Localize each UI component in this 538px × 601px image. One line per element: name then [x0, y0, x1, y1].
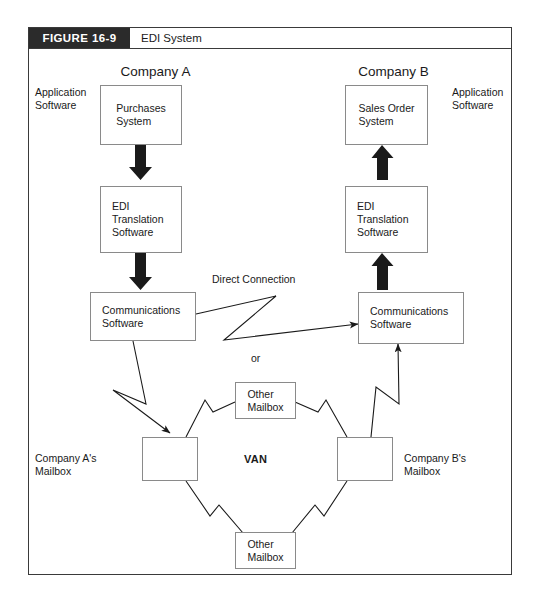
box-purchases-system-label: Purchases System: [116, 102, 166, 128]
box-other-mailbox-bottom[interactable]: Other Mailbox: [235, 532, 296, 569]
company-a-title: Company A: [98, 64, 213, 80]
direct-connection-label: Direct Connection: [212, 273, 295, 286]
box-sales-order-system[interactable]: Sales Order System: [345, 85, 428, 145]
company-b-title: Company B: [336, 64, 451, 80]
or-label: or: [251, 352, 260, 365]
box-communications-a-label: Communications Software: [91, 304, 180, 330]
application-software-label-right: Application Software: [452, 86, 522, 112]
box-communications-b-label: Communications Software: [359, 305, 448, 331]
van-label: VAN: [244, 453, 267, 466]
figure-number-badge: FIGURE 16-9: [29, 28, 130, 48]
mailbox-b-label: Company B's Mailbox: [404, 452, 504, 478]
box-mailbox-a[interactable]: [142, 437, 198, 481]
box-other-mailbox-top[interactable]: Other Mailbox: [235, 382, 296, 419]
box-edi-translation-a-label: EDI Translation Software: [101, 200, 164, 239]
box-edi-translation-b-label: EDI Translation Software: [346, 200, 409, 239]
application-software-label-left: Application Software: [35, 86, 97, 112]
box-edi-translation-b[interactable]: EDI Translation Software: [345, 186, 428, 253]
box-sales-order-system-label: Sales Order System: [358, 102, 414, 128]
figure-header: FIGURE 16-9 EDI System: [28, 27, 512, 49]
mailbox-a-label: Company A's Mailbox: [35, 452, 135, 478]
box-communications-b[interactable]: Communications Software: [358, 292, 464, 344]
box-edi-translation-a[interactable]: EDI Translation Software: [100, 186, 182, 253]
box-purchases-system[interactable]: Purchases System: [100, 85, 182, 145]
edi-system-figure: FIGURE 16-9 EDI System: [0, 0, 538, 601]
box-communications-a[interactable]: Communications Software: [90, 292, 196, 341]
box-mailbox-b[interactable]: [337, 437, 393, 481]
box-other-mailbox-bottom-label: Other Mailbox: [247, 538, 283, 564]
box-other-mailbox-top-label: Other Mailbox: [247, 388, 283, 414]
figure-caption: EDI System: [130, 28, 202, 48]
